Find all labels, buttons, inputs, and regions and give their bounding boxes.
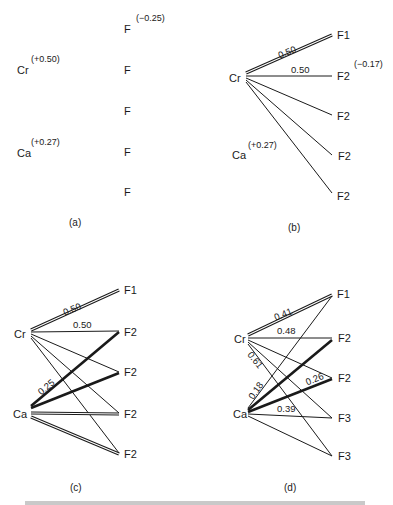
f2-label-1: F2 bbox=[338, 332, 351, 344]
bond-network-figure: Cr (+0.50) Ca (+0.27) (−0.25) F F F F F … bbox=[0, 0, 393, 505]
f2-label-2: F2 bbox=[124, 366, 137, 378]
ca-charge: (+0.27) bbox=[31, 137, 60, 147]
ca-label: Ca bbox=[13, 408, 28, 420]
truncated-caption bbox=[25, 501, 365, 505]
f3-label-1: F3 bbox=[338, 412, 351, 424]
f-label-2: F bbox=[124, 64, 131, 76]
cr-label: Cr bbox=[14, 328, 26, 340]
ca-f2-bond-3 bbox=[31, 413, 119, 414]
cr-charge: (+0.50) bbox=[31, 54, 60, 64]
cr-f2-bond-1 bbox=[31, 331, 119, 332]
f2-label-3: F2 bbox=[124, 408, 137, 420]
f2-charge: (−0.17) bbox=[354, 59, 383, 69]
bond-value-cr-f2: 0.50 bbox=[73, 319, 92, 330]
f-label-4: F bbox=[124, 146, 131, 158]
panel-c-caption: (c) bbox=[70, 482, 82, 493]
cr-label: Cr bbox=[234, 333, 246, 345]
cr-label: Cr bbox=[229, 72, 241, 84]
bond-value-ca-f2: 0.25 bbox=[35, 377, 56, 397]
f2-label-1: F2 bbox=[124, 326, 137, 338]
f-charge: (−0.25) bbox=[136, 13, 165, 23]
f2-label-4: F2 bbox=[124, 448, 137, 460]
f-label-3: F bbox=[124, 105, 131, 117]
cr-label: Cr bbox=[17, 64, 29, 76]
ca-f3-bond-1 bbox=[248, 414, 332, 418]
bond-value-cr-f2: 0.48 bbox=[277, 325, 296, 336]
bond-value-cr-f1: 0.50 bbox=[61, 301, 82, 318]
f2-label-1: F2 bbox=[337, 70, 350, 82]
cr-f2-bond-2 bbox=[31, 334, 119, 372]
ca-label: Ca bbox=[232, 149, 247, 161]
bond-value-cr-f1: 0.50 bbox=[276, 44, 297, 61]
f1-label: F1 bbox=[337, 29, 350, 41]
f2-label-2: F2 bbox=[337, 110, 350, 122]
bond-value-cr-f3: 0.61 bbox=[246, 349, 266, 370]
f2-label-4: F2 bbox=[337, 190, 350, 202]
ca-label: Ca bbox=[17, 147, 32, 159]
f1-label: F1 bbox=[337, 288, 350, 300]
bond-value-ca-f3: 0.39 bbox=[277, 403, 296, 414]
panel-c: 0.50 0.50 0.25 Cr Ca F1 F2 F2 F2 F2 (c) bbox=[13, 284, 137, 493]
cr-f2-bond-4 bbox=[246, 82, 332, 193]
f1-label: F1 bbox=[124, 284, 137, 296]
ca-label: Ca bbox=[233, 408, 248, 420]
panel-a-caption: (a) bbox=[69, 217, 81, 228]
f3-label-2: F3 bbox=[338, 450, 351, 462]
panel-a: Cr (+0.50) Ca (+0.27) (−0.25) F F F F F … bbox=[17, 13, 165, 228]
f2-label-2: F2 bbox=[338, 372, 351, 384]
ca-charge: (+0.27) bbox=[248, 140, 277, 150]
f-label-5: F bbox=[124, 186, 131, 198]
panel-b-caption: (b) bbox=[288, 222, 300, 233]
panel-d-caption: (d) bbox=[284, 482, 296, 493]
cr-f2-bond-2 bbox=[246, 78, 332, 115]
panel-d: 0.41 0.48 0.61 0.18 0.26 0.39 Cr Ca F1 F… bbox=[233, 288, 351, 493]
ca-f3-bond-2 bbox=[248, 416, 332, 456]
f-label-1: F bbox=[124, 23, 131, 35]
bond-value-cr-f2: 0.50 bbox=[291, 64, 310, 75]
panel-b: 0.50 0.50 Cr Ca (+0.27) (−0.17) F1 F2 F2… bbox=[229, 29, 383, 233]
f2-label-3: F2 bbox=[338, 150, 351, 162]
